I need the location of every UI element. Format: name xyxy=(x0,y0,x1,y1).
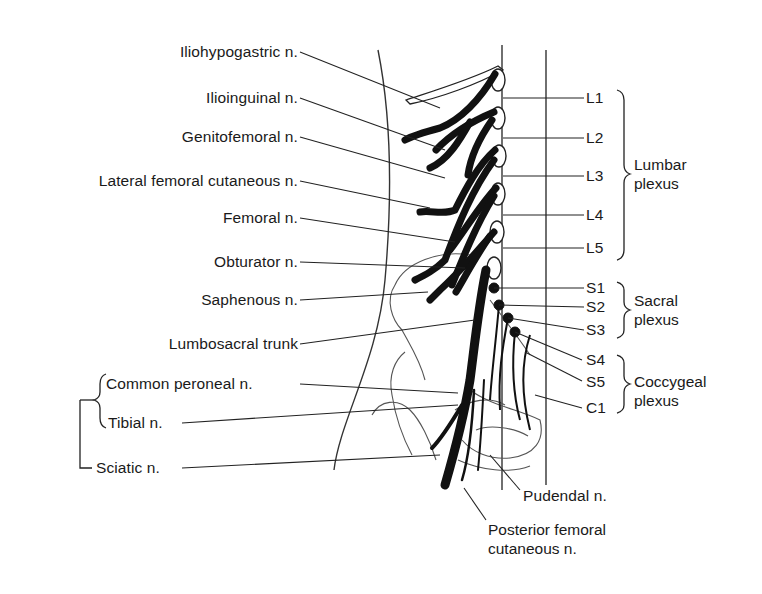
group-lumbar-plexus: Lumbar plexus xyxy=(634,155,687,193)
pudendal-branches xyxy=(490,305,530,430)
root-label-s4: S4 xyxy=(586,351,605,369)
group-sacral-line2: plexus xyxy=(634,310,679,329)
label-posterior-femoral-line1: Posterior femoral xyxy=(488,520,606,539)
label-genitofemoral: Genitofemoral n. xyxy=(110,128,298,146)
group-lumbar-line2: plexus xyxy=(634,174,687,193)
group-sacral-line1: Sacral xyxy=(634,291,679,310)
label-iliohypogastric: Iliohypogastric n. xyxy=(110,43,298,61)
group-coccygeal-line1: Coccygeal xyxy=(634,372,706,391)
label-femoral: Femoral n. xyxy=(110,209,298,227)
label-common-peroneal: Common peroneal n. xyxy=(106,375,253,393)
label-posterior-femoral-cutaneous: Posterior femoral cutaneous n. xyxy=(488,520,606,558)
label-lateral-femoral-cutaneous: Lateral femoral cutaneous n. xyxy=(20,172,298,190)
group-sacral-plexus: Sacral plexus xyxy=(634,291,679,329)
group-coccygeal-plexus: Coccygeal plexus xyxy=(634,372,706,410)
root-label-s1: S1 xyxy=(586,279,605,297)
label-obturator: Obturator n. xyxy=(110,253,298,271)
root-label-l5: L5 xyxy=(586,239,603,257)
label-tibial: Tibial n. xyxy=(108,414,163,432)
root-label-s5: S5 xyxy=(586,373,605,391)
root-label-c1: C1 xyxy=(586,399,606,417)
root-label-s3: S3 xyxy=(586,321,605,339)
root-label-l4: L4 xyxy=(586,206,603,224)
group-coccygeal-line2: plexus xyxy=(634,391,706,410)
leader-lines xyxy=(182,52,584,520)
sacral-roots xyxy=(489,283,520,337)
label-lumbosacral-trunk: Lumbosacral trunk xyxy=(100,335,298,353)
label-posterior-femoral-line2: cutaneous n. xyxy=(488,539,606,558)
root-label-l2: L2 xyxy=(586,129,603,147)
root-label-s2: S2 xyxy=(586,298,605,316)
group-lumbar-line1: Lumbar xyxy=(634,155,687,174)
label-pudendal: Pudendal n. xyxy=(523,487,607,505)
root-label-l1: L1 xyxy=(586,89,603,107)
label-sciatic: Sciatic n. xyxy=(96,459,160,477)
label-ilioinguinal: Ilioinguinal n. xyxy=(110,89,298,107)
label-saphenous: Saphenous n. xyxy=(110,291,298,309)
root-label-l3: L3 xyxy=(586,167,603,185)
